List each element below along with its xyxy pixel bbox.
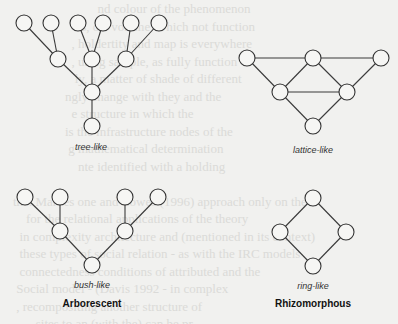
tree-like-label: tree-like bbox=[75, 142, 107, 152]
bush-node bbox=[117, 223, 133, 239]
tree-node bbox=[123, 15, 139, 31]
bush-node bbox=[117, 189, 133, 205]
bush-node bbox=[52, 189, 68, 205]
lattice-node bbox=[272, 84, 288, 100]
lattice-node bbox=[305, 50, 321, 66]
nodes bbox=[16, 15, 389, 274]
tree-node bbox=[95, 15, 111, 31]
ring-node bbox=[305, 190, 321, 206]
lattice-like-label: lattice-like bbox=[293, 145, 333, 155]
lattice-node bbox=[373, 50, 389, 66]
tree-node bbox=[118, 51, 134, 67]
tree-node bbox=[16, 15, 32, 31]
ring-node bbox=[305, 258, 321, 274]
tree-node bbox=[43, 15, 59, 31]
graph-topology-diagram: tree-like lattice-like bush-like ring-li… bbox=[0, 0, 398, 324]
bush-node bbox=[84, 257, 100, 273]
tree-node bbox=[70, 15, 86, 31]
labels: tree-like lattice-like bush-like ring-li… bbox=[63, 142, 352, 309]
bush-like-label: bush-like bbox=[74, 280, 110, 290]
lattice-node bbox=[305, 118, 321, 134]
rhizomorphous-category-label: Rhizomorphous bbox=[275, 298, 352, 309]
lattice-node bbox=[239, 50, 255, 66]
lattice-node bbox=[339, 84, 355, 100]
ring-node bbox=[338, 224, 354, 240]
bush-node bbox=[52, 223, 68, 239]
bush-node bbox=[150, 189, 166, 205]
ring-node bbox=[272, 224, 288, 240]
arborescent-category-label: Arborescent bbox=[63, 298, 123, 309]
bush-node bbox=[17, 189, 33, 205]
tree-node bbox=[84, 84, 100, 100]
tree-node bbox=[84, 118, 100, 134]
ring-like-label: ring-like bbox=[297, 281, 329, 291]
tree-node bbox=[84, 51, 100, 67]
tree-node bbox=[50, 51, 66, 67]
tree-node bbox=[151, 15, 167, 31]
